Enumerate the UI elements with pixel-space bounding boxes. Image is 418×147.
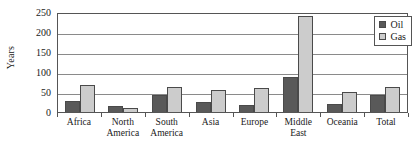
bar-group [102, 14, 146, 112]
x-axis-label: Asia [189, 117, 233, 145]
bar-oil [327, 104, 342, 112]
plot-area [57, 13, 408, 113]
x-axis-labels: AfricaNorthAmericaSouthAmericaAsiaEurope… [57, 117, 408, 145]
y-tick-label: 50 [41, 88, 51, 98]
x-axis-label: MiddleEast [276, 117, 320, 145]
y-tick-label: 150 [36, 48, 51, 58]
bar-oil [196, 102, 211, 112]
legend-label: Oil [390, 19, 403, 30]
bar-gas [167, 87, 182, 112]
bar-gas [342, 92, 357, 112]
x-axis-label-line2: America [102, 128, 144, 139]
bar-group [276, 14, 320, 112]
bar-gas [80, 85, 95, 112]
bar-group [320, 14, 364, 112]
bar-group [189, 14, 233, 112]
bar-chart: Years 050100150200250 AfricaNorthAmerica… [0, 0, 418, 147]
x-axis-label: Oceania [320, 117, 364, 145]
bar-oil [370, 95, 385, 112]
bar-gas [298, 16, 313, 112]
x-axis-label-line1: Middle [285, 117, 312, 127]
bar-oil [65, 101, 80, 112]
oil-swatch [379, 21, 386, 28]
y-axis-title-text: Years [6, 46, 17, 69]
y-tick-label: 200 [36, 28, 51, 38]
bar-oil [152, 95, 167, 112]
bar-oil [239, 105, 254, 112]
x-axis-label-line1: North [112, 117, 134, 127]
bar-gas [254, 88, 269, 112]
bar-group [145, 14, 189, 112]
y-tick-label: 100 [36, 68, 51, 78]
chart-legend: OilGas [374, 16, 412, 46]
x-axis-label-line1: Total [376, 117, 395, 127]
x-axis-label-line2: America [146, 128, 188, 139]
y-tick-label: 250 [36, 8, 51, 18]
x-axis-label-line1: Europe [241, 117, 268, 127]
bars-layer [58, 14, 407, 112]
bar-gas [385, 87, 400, 112]
bar-group [58, 14, 102, 112]
bar-oil [283, 77, 298, 112]
bar-group [233, 14, 277, 112]
legend-item-gas: Gas [379, 31, 406, 42]
x-axis-label: Africa [57, 117, 101, 145]
x-axis-label: Total [364, 117, 408, 145]
x-axis-label: SouthAmerica [145, 117, 189, 145]
bar-oil [108, 106, 123, 112]
bar-gas [123, 108, 138, 112]
x-tick [408, 113, 409, 117]
x-axis-label: NorthAmerica [101, 117, 145, 145]
legend-item-oil: Oil [379, 19, 406, 30]
y-axis-tick-labels: 050100150200250 [18, 8, 54, 118]
x-axis-label-line1: Asia [202, 117, 219, 127]
x-axis-label-line1: South [156, 117, 178, 127]
x-axis-label-line1: Oceania [327, 117, 358, 127]
x-axis-label: Europe [233, 117, 277, 145]
x-axis-label-line1: Africa [67, 117, 91, 127]
y-tick-label: 0 [46, 108, 51, 118]
x-axis-label-line2: East [277, 128, 319, 139]
gas-swatch [379, 33, 386, 40]
legend-label: Gas [390, 31, 406, 42]
bar-gas [211, 90, 226, 112]
